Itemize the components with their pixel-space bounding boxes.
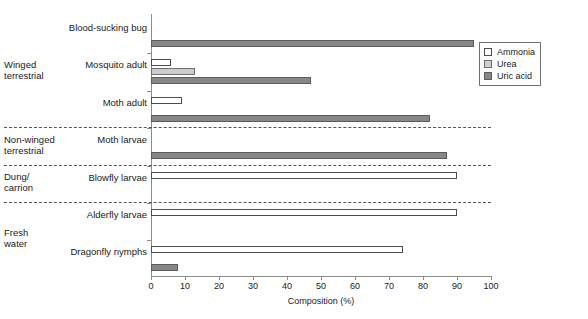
bar-ammonia [151,59,171,66]
y-tick [147,203,151,204]
group-label-line: carrion [4,182,33,193]
group-divider [4,165,491,166]
bar-ammonia [151,209,457,216]
category-label: Alderfly larvae [87,209,147,220]
group-divider [4,202,491,203]
group-label-line: terrestrial [4,70,44,81]
x-tick [491,276,492,280]
bar-ammonia [151,172,457,179]
legend-item-ammonia: Ammonia [484,46,535,58]
group-label: Wingedterrestrial [4,59,44,81]
category-label: Blood-sucking bug [69,22,147,33]
legend: Ammonia Urea Uric acid [479,42,541,86]
bar-uric [151,115,430,122]
category-label: Dragonfly nymphs [70,246,147,257]
x-tick-label: 10 [180,281,190,291]
x-tick-label: 80 [418,281,428,291]
y-tick [147,53,151,54]
bar-uric [151,40,474,47]
x-tick-label: 50 [316,281,326,291]
group-label: Non-wingedterrestrial [4,134,55,156]
x-tick [287,276,288,280]
category-label: Mosquito adult [85,59,147,70]
group-divider [4,127,491,128]
legend-label-uric-acid: Uric acid [497,71,532,81]
y-tick [147,128,151,129]
category-label: Moth larvae [97,134,147,145]
x-tick [457,276,458,280]
nitrogenous-waste-composition-chart: 0102030405060708090100 Blood-sucking bug… [0,0,588,319]
x-tick-label: 20 [214,281,224,291]
y-axis-line [151,14,152,276]
legend-swatch-uric-acid-icon [484,72,492,80]
bar-ammonia [151,246,403,253]
group-label-line: terrestrial [4,145,55,156]
legend-label-ammonia: Ammonia [497,47,535,57]
legend-label-urea: Urea [497,59,517,69]
bar-ammonia [151,97,182,104]
x-tick [253,276,254,280]
y-tick [147,91,151,92]
x-tick [321,276,322,280]
x-axis-title: Composition (%) [151,296,491,306]
y-tick [147,240,151,241]
x-tick-label: 0 [148,281,153,291]
x-tick-label: 90 [452,281,462,291]
x-tick-label: 30 [248,281,258,291]
group-label-line: Dung/ [4,171,33,182]
group-label: Freshwater [4,227,28,249]
x-tick-label: 70 [384,281,394,291]
x-tick [151,276,152,280]
x-tick-label: 40 [282,281,292,291]
x-tick [389,276,390,280]
group-label-line: water [4,238,28,249]
y-tick [147,166,151,167]
category-label: Blowfly larvae [88,171,147,182]
x-tick [219,276,220,280]
bar-uric [151,264,178,271]
bar-uric [151,77,311,84]
legend-item-uric-acid: Uric acid [484,70,535,82]
group-label: Dung/carrion [4,171,33,193]
x-tick-label: 60 [350,281,360,291]
bar-uric [151,152,447,159]
group-label-line: Winged [4,59,44,70]
x-tick [185,276,186,280]
x-tick [423,276,424,280]
group-label-line: Non-winged [4,134,55,145]
legend-swatch-urea-icon [484,60,492,68]
bar-urea [151,68,195,75]
group-label-line: Fresh [4,227,28,238]
x-tick [355,276,356,280]
legend-item-urea: Urea [484,58,535,70]
category-label: Moth adult [103,96,147,107]
x-tick-label: 100 [483,281,498,291]
legend-swatch-ammonia-icon [484,48,492,56]
